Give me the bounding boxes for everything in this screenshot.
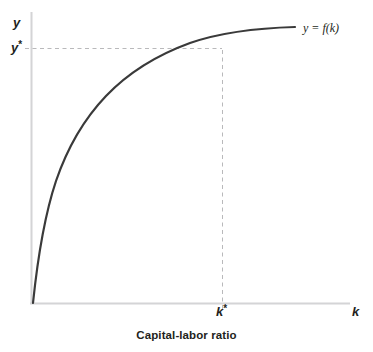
production-function-chart: y y* k* k y = f(k) Capital-labor ratio — [0, 0, 373, 352]
production-function-label: y = f(k) — [303, 22, 339, 34]
asterisk-icon: * — [18, 39, 22, 50]
production-function-curve — [33, 27, 295, 303]
asterisk-icon: * — [223, 303, 227, 314]
x-axis-caption: Capital-labor ratio — [0, 330, 373, 342]
y-axis-symbol-label: y — [13, 16, 20, 29]
y-star-tick-label: y* — [11, 41, 22, 54]
k-star-tick-label: k* — [216, 305, 227, 318]
chart-plot-area — [0, 0, 373, 352]
x-axis-symbol-label: k — [352, 305, 359, 318]
